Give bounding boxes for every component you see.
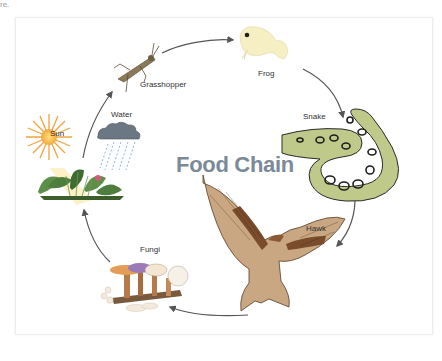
label-hawk: Hawk [306, 224, 326, 233]
snake-icon [282, 109, 399, 201]
label-snake: Snake [303, 112, 326, 121]
label-sun: Sun [50, 129, 64, 138]
arrow-fungi-to-plants [84, 210, 110, 262]
label-water: Water [111, 110, 132, 119]
sun-icon [26, 114, 92, 205]
label-grasshopper: Grasshopper [140, 80, 186, 89]
arrow-frog-to-snake [303, 69, 343, 117]
arrow-plants-to-grasshopper [83, 92, 112, 158]
frog-icon [240, 27, 288, 60]
label-frog: Frog [258, 69, 274, 78]
arrow-hawk-to-fungi [170, 307, 248, 316]
arrow-grasshopper-to-frog [162, 40, 233, 53]
fungi-icon [101, 263, 188, 312]
diagram-title: Food Chain [176, 152, 294, 178]
label-fungi: Fungi [140, 245, 160, 254]
food-chain-artwork [0, 0, 442, 361]
water-cloud-icon [97, 122, 140, 170]
